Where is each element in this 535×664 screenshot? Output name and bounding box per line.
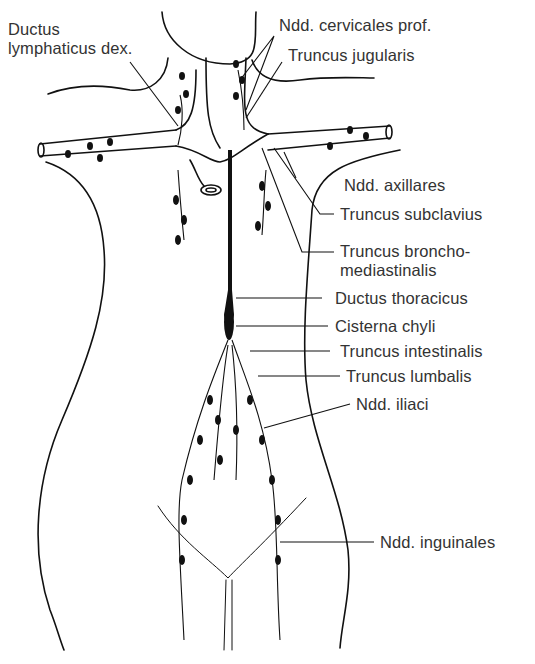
label-ndd-inguinales: Ndd. inguinales [380,533,495,552]
label-truncus-bronchomediastinalis: Truncus broncho- mediastinalis [340,242,470,280]
cisterna-chyli [224,304,234,340]
label-line: lymphaticus dex. [8,39,133,58]
label-ndd-axillares: Ndd. axillares [344,176,445,195]
anatomy-illustration [0,0,535,664]
label-truncus-intestinalis: Truncus intestinalis [340,342,483,361]
lymphatic-system-diagram: Ductus lymphaticus dex. Ndd. cervicales … [0,0,535,664]
neck-outline [162,12,256,64]
left-arm-vessel-lower [40,146,176,156]
label-truncus-subclavius: Truncus subclavius [340,205,482,224]
label-line: Ductus [8,20,133,39]
label-truncus-jugularis: Truncus jugularis [288,46,415,65]
label-truncus-lumbalis: Truncus lumbalis [346,367,472,386]
label-line: Truncus broncho- [340,242,470,261]
label-cisterna-chyli: Cisterna chyli [335,317,435,336]
ductus-thoracicus [224,150,234,328]
label-ndd-iliaci: Ndd. iliaci [356,395,429,414]
label-ductus-thoracicus: Ductus thoracicus [335,289,468,308]
left-torso-outline [38,162,105,650]
label-ndd-cervicales-prof: Ndd. cervicales prof. [279,16,432,35]
right-arm-vessel-upper [268,126,390,134]
label-line: mediastinalis [340,261,470,280]
label-ductus-lymphaticus-dex: Ductus lymphaticus dex. [8,20,133,58]
